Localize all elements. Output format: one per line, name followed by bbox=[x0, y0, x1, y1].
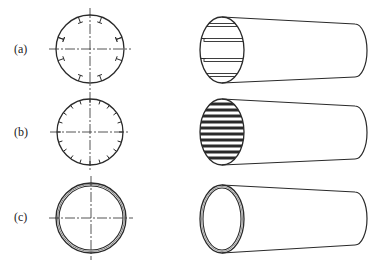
interior-rib bbox=[200, 157, 244, 160]
interior-rib bbox=[200, 145, 244, 148]
rib-mark-icon bbox=[78, 17, 80, 23]
interior-rib bbox=[200, 115, 244, 118]
tick-mark-icon bbox=[99, 101, 100, 105]
tick-mark-icon bbox=[59, 122, 63, 123]
tick-mark-icon bbox=[71, 155, 73, 158]
rib-mark-icon bbox=[58, 59, 64, 61]
tube-inner-wall-c bbox=[203, 188, 241, 250]
rib-mark-icon bbox=[116, 59, 122, 61]
interior-rib bbox=[204, 59, 248, 62]
tube-opening-c bbox=[200, 185, 244, 253]
interior-rib bbox=[204, 24, 248, 27]
rib-mark-icon bbox=[58, 37, 64, 39]
tick-mark-icon bbox=[59, 141, 63, 142]
tick-mark-icon bbox=[63, 149, 66, 151]
tick-mark-icon bbox=[63, 113, 66, 115]
interior-rib bbox=[200, 127, 244, 130]
tick-mark-icon bbox=[71, 105, 73, 108]
interior-rib bbox=[200, 151, 244, 154]
rib-mark-icon bbox=[78, 75, 80, 81]
tick-mark-icon bbox=[118, 122, 122, 123]
rib-mark-icon bbox=[116, 37, 122, 39]
tick-mark-icon bbox=[99, 160, 100, 164]
interior-rib bbox=[200, 133, 244, 136]
diagram-canvas bbox=[0, 0, 382, 267]
tick-mark-icon bbox=[113, 149, 116, 151]
tick-mark-icon bbox=[107, 105, 109, 108]
interior-rib bbox=[200, 121, 244, 124]
tick-mark-icon bbox=[80, 160, 81, 164]
tick-mark-icon bbox=[118, 141, 122, 142]
tube-wall-mid-c bbox=[202, 187, 243, 252]
rib-mark-icon bbox=[100, 75, 102, 81]
rib-mark-icon bbox=[100, 17, 102, 23]
figure-stage: (a) (b) (c) bbox=[0, 0, 382, 267]
tick-mark-icon bbox=[107, 155, 109, 158]
interior-rib bbox=[204, 39, 248, 42]
interior-rib bbox=[200, 139, 244, 142]
tick-mark-icon bbox=[80, 101, 81, 105]
interior-rib bbox=[204, 74, 248, 77]
tick-mark-icon bbox=[113, 113, 116, 115]
interior-rib bbox=[200, 103, 244, 106]
